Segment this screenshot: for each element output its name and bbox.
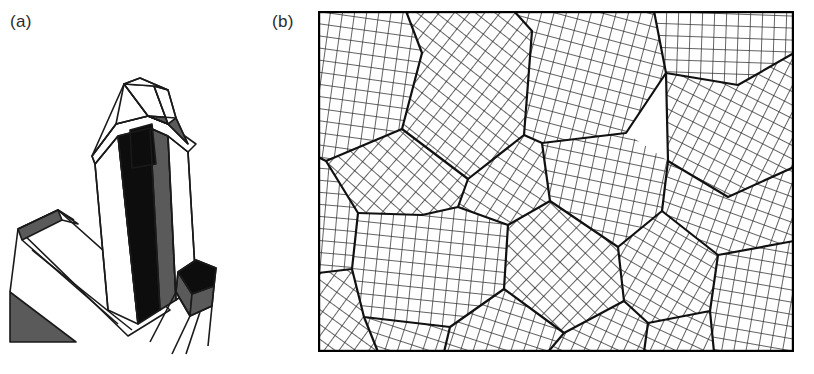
- panel-a-illustration: [0, 24, 300, 369]
- grain-lattices: [318, 11, 794, 352]
- grain-structure-svg: [318, 11, 794, 352]
- crystal-drawing-svg: [0, 24, 300, 369]
- figure-root: (a) (b): [0, 0, 814, 374]
- panel-b-illustration: [318, 11, 794, 352]
